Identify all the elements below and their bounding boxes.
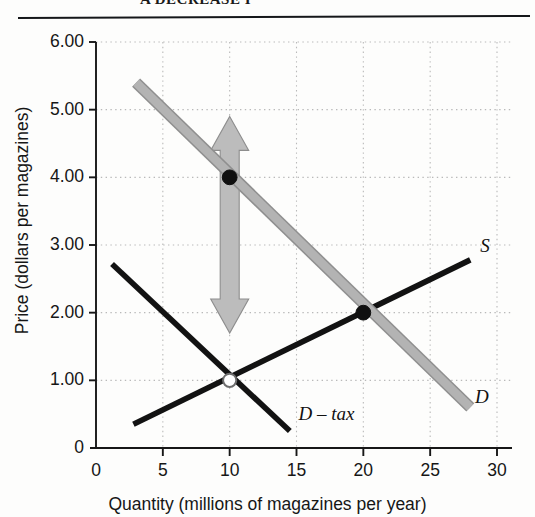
economics-supply-demand-figure: A DECREASE I Price (dollars per magazine… xyxy=(0,0,535,517)
y-tick-label: 5.00 xyxy=(50,99,84,120)
curve-label-s: S xyxy=(480,235,490,257)
x-tick-label: 30 xyxy=(477,460,517,481)
x-tick-label: 15 xyxy=(277,460,317,481)
y-tick-label: 0 xyxy=(74,437,84,458)
y-axis-title: Price (dollars per magazines) xyxy=(12,71,33,371)
x-tick-label: 0 xyxy=(76,460,116,481)
x-axis-title: Quantity (millions of magazines per year… xyxy=(0,494,535,515)
curve-label-d-tax: D – tax xyxy=(299,403,355,425)
x-tick-label: 25 xyxy=(410,460,450,481)
y-tick-label: 6.00 xyxy=(50,31,84,52)
y-tick-label: 1.00 xyxy=(50,369,84,390)
x-tick-label: 5 xyxy=(143,460,183,481)
x-tick-label: 20 xyxy=(343,460,383,481)
curve-label-d: D xyxy=(475,386,489,408)
price-change-arrow xyxy=(211,116,249,333)
y-tick-label: 4.00 xyxy=(50,166,84,187)
x-tick-label: 10 xyxy=(210,460,250,481)
curves xyxy=(112,83,470,431)
y-tick-label: 2.00 xyxy=(50,302,84,323)
y-tick-label: 3.00 xyxy=(50,234,84,255)
